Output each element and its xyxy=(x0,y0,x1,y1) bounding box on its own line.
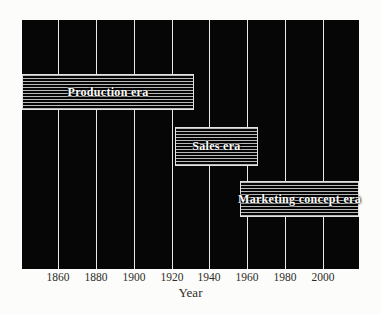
marketing-eras-timeline-chart: 18601880190019201940196019802000Producti… xyxy=(0,0,381,314)
vertical-gridline-1880 xyxy=(96,20,97,269)
vertical-gridline-1860 xyxy=(58,20,59,269)
x-tick-label: 1980 xyxy=(265,271,305,283)
vertical-gridline-1920 xyxy=(172,20,173,269)
bar-label: Marketing concept era xyxy=(238,192,361,207)
bar-production-era: Production era xyxy=(22,74,194,110)
x-tick-label: 1940 xyxy=(189,271,229,283)
x-tick-label: 1900 xyxy=(114,271,154,283)
x-tick-label: 2000 xyxy=(303,271,343,283)
vertical-gridline-1900 xyxy=(134,20,135,269)
bar-sales-era: Sales era xyxy=(175,127,258,166)
x-tick-label: 1880 xyxy=(76,271,116,283)
bar-label: Sales era xyxy=(192,139,240,154)
bar-marketing-concept-era: Marketing concept era xyxy=(240,181,359,217)
vertical-gridline-2000 xyxy=(323,20,324,269)
vertical-gridline-1980 xyxy=(285,20,286,269)
x-tick-label: 1920 xyxy=(152,271,192,283)
x-axis-title: Year xyxy=(22,285,359,301)
x-tick-label: 1960 xyxy=(227,271,267,283)
bar-label: Production era xyxy=(68,85,149,100)
x-tick-label: 1860 xyxy=(38,271,78,283)
